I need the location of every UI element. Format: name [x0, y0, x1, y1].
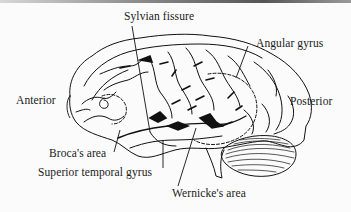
leader-wernicke [178, 128, 196, 186]
leader-sylvian [132, 26, 150, 132]
label-wernickes-area: Wernicke's area [172, 187, 246, 199]
label-sylvian-fissure: Sylvian fissure [124, 10, 194, 22]
label-brocas-area: Broca's area [49, 147, 106, 159]
cerebrum-outline [70, 34, 312, 157]
label-posterior: Posterior [290, 95, 332, 107]
label-anterior: Anterior [16, 94, 56, 106]
leader-angular [236, 46, 248, 78]
label-angular-gyrus: Angular gyrus [256, 37, 323, 49]
label-superior-temporal-gyrus: Superior temporal gyrus [38, 166, 152, 178]
